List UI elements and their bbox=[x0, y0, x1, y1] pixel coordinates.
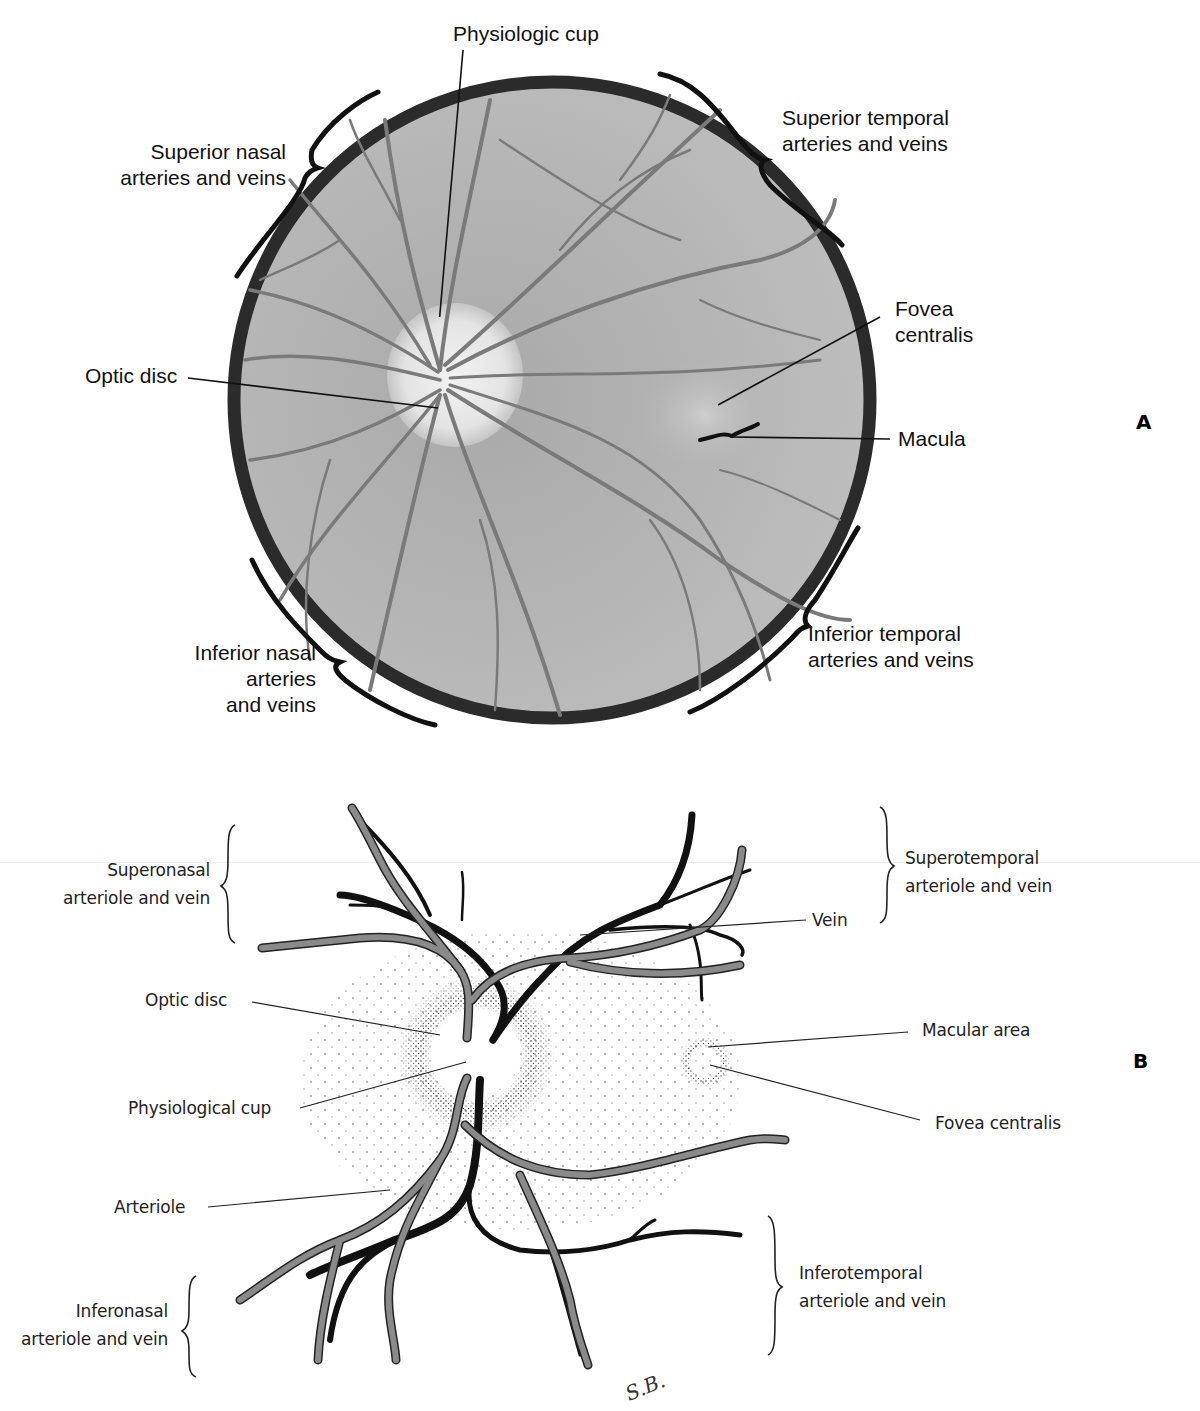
label-line: Superotemporal bbox=[905, 844, 1052, 872]
label-optic-disc-b: Optic disc bbox=[145, 986, 227, 1014]
label-line: Inferotemporal bbox=[799, 1259, 946, 1287]
label-macular-area: Macular area bbox=[922, 1016, 1030, 1044]
label-inferotemporal: Inferotemporal arteriole and vein bbox=[799, 1259, 946, 1315]
label-line: arteriole and vein bbox=[905, 872, 1052, 900]
label-fovea-centralis-b: Fovea centralis bbox=[935, 1109, 1061, 1137]
label-inferonasal: Inferonasal arteriole and vein bbox=[0, 1297, 168, 1353]
label-line: arteriole and vein bbox=[20, 884, 210, 912]
label-superotemporal: Superotemporal arteriole and vein bbox=[905, 844, 1052, 900]
label-physiological-cup: Physiological cup bbox=[128, 1094, 271, 1122]
panel-letter-b: B bbox=[1133, 1049, 1148, 1073]
label-vein: Vein bbox=[812, 906, 847, 934]
label-line: arteriole and vein bbox=[799, 1287, 946, 1315]
label-line: Inferonasal bbox=[0, 1297, 168, 1325]
label-line: arteriole and vein bbox=[0, 1325, 168, 1353]
label-superonasal: Superonasal arteriole and vein bbox=[20, 856, 210, 912]
label-line: Superonasal bbox=[20, 856, 210, 884]
macular-area-b bbox=[679, 1036, 731, 1088]
label-arteriole: Arteriole bbox=[114, 1193, 185, 1221]
